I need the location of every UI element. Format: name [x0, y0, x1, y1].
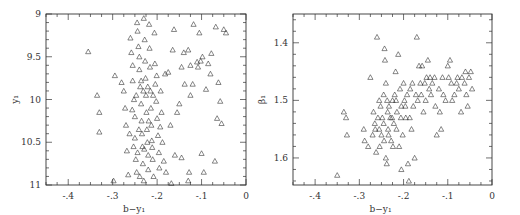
triangle-marker-icon	[218, 99, 223, 104]
x-tick-label: -.4	[62, 191, 74, 201]
triangle-marker-icon	[383, 80, 388, 85]
x-tick-label: -.3	[107, 191, 119, 201]
triangle-marker-icon	[179, 64, 184, 69]
triangle-marker-icon	[146, 152, 151, 157]
triangle-marker-icon	[186, 178, 191, 183]
triangle-marker-icon	[385, 109, 390, 114]
triangle-marker-icon	[112, 73, 117, 78]
triangle-marker-icon	[341, 109, 346, 114]
triangle-marker-icon	[170, 47, 175, 52]
triangle-marker-icon	[377, 144, 382, 149]
triangle-marker-icon	[458, 109, 463, 114]
triangle-marker-icon	[157, 165, 162, 170]
triangle-marker-icon	[138, 84, 143, 89]
triangle-marker-icon	[151, 93, 156, 98]
triangle-marker-icon	[396, 52, 401, 57]
triangle-marker-icon	[136, 127, 141, 132]
triangle-marker-icon	[150, 145, 155, 150]
triangle-marker-icon	[130, 63, 135, 68]
triangle-marker-icon	[179, 155, 184, 160]
triangle-marker-icon	[409, 127, 414, 132]
triangle-marker-icon	[132, 135, 137, 140]
triangle-marker-icon	[437, 109, 442, 114]
triangle-marker-icon	[390, 98, 395, 103]
triangle-marker-icon	[149, 138, 154, 143]
y-tick-label: 10	[30, 95, 42, 105]
data-points	[86, 16, 229, 186]
triangle-marker-icon	[123, 123, 128, 128]
triangle-marker-icon	[379, 132, 384, 137]
triangle-marker-icon	[382, 57, 387, 62]
triangle-marker-icon	[160, 140, 165, 145]
triangle-marker-icon	[147, 22, 152, 27]
triangle-marker-icon	[139, 131, 144, 136]
triangle-marker-icon	[361, 127, 366, 132]
triangle-marker-icon	[154, 99, 159, 104]
x-tick-label: -.3	[354, 191, 366, 201]
triangle-marker-icon	[144, 127, 149, 132]
triangle-marker-icon	[154, 73, 159, 78]
triangle-marker-icon	[456, 86, 461, 91]
triangle-marker-icon	[380, 115, 385, 120]
triangle-marker-icon	[148, 88, 153, 93]
triangle-marker-icon	[148, 105, 153, 110]
triangle-marker-icon	[171, 27, 176, 32]
triangle-marker-icon	[168, 123, 173, 128]
triangle-marker-icon	[197, 30, 202, 35]
triangle-marker-icon	[427, 86, 432, 91]
triangle-marker-icon	[425, 57, 430, 62]
scatter-panel-left: -.4-.3-.2-.1099.51010.511b−y₁y₁	[10, 9, 249, 214]
triangle-marker-icon	[464, 92, 469, 97]
y-tick-label: 10.5	[21, 137, 41, 147]
triangle-marker-icon	[212, 158, 217, 163]
triangle-marker-icon	[411, 104, 416, 109]
triangle-marker-icon	[465, 104, 470, 109]
triangle-marker-icon	[163, 170, 168, 175]
triangle-marker-icon	[206, 61, 211, 66]
x-axis-label: b−y₁	[123, 204, 145, 214]
triangle-marker-icon	[440, 75, 445, 80]
scatter-figure: -.4-.3-.2-.1099.51010.511b−y₁y₁ -.4-.3-.…	[0, 0, 520, 215]
triangle-marker-icon	[368, 75, 373, 80]
triangle-marker-icon	[443, 98, 448, 103]
triangle-marker-icon	[391, 121, 396, 126]
triangle-marker-icon	[430, 80, 435, 85]
triangle-marker-icon	[152, 61, 157, 66]
triangle-marker-icon	[95, 93, 100, 98]
triangle-marker-icon	[145, 84, 150, 89]
triangle-marker-icon	[137, 174, 142, 179]
triangle-marker-icon	[128, 35, 133, 40]
triangle-marker-icon	[153, 82, 158, 87]
triangle-marker-icon	[377, 98, 382, 103]
triangle-marker-icon	[141, 88, 146, 93]
triangle-marker-icon	[399, 167, 404, 172]
triangle-marker-icon	[140, 161, 145, 166]
triangle-marker-icon	[389, 115, 394, 120]
triangle-marker-icon	[408, 86, 413, 91]
triangle-marker-icon	[378, 104, 383, 109]
triangle-marker-icon	[468, 69, 473, 74]
triangle-marker-icon	[445, 63, 450, 68]
x-tick-label: -.2	[151, 191, 163, 201]
triangle-marker-icon	[203, 87, 208, 92]
triangle-marker-icon	[410, 80, 415, 85]
triangle-marker-icon	[398, 115, 403, 120]
triangle-marker-icon	[133, 157, 138, 162]
triangle-marker-icon	[375, 115, 380, 120]
triangle-marker-icon	[187, 170, 192, 175]
y-axis-label: β₁	[257, 95, 267, 104]
y-tick-label: 1.4	[274, 38, 289, 48]
triangle-marker-icon	[130, 78, 135, 83]
triangle-marker-icon	[97, 110, 102, 115]
triangle-marker-icon	[161, 158, 166, 163]
triangle-marker-icon	[143, 58, 148, 63]
triangle-marker-icon	[370, 132, 375, 137]
triangle-marker-icon	[152, 30, 157, 35]
triangle-marker-icon	[209, 51, 214, 56]
triangle-marker-icon	[111, 178, 116, 183]
triangle-marker-icon	[383, 155, 388, 160]
triangle-marker-icon	[423, 98, 428, 103]
triangle-marker-icon	[452, 92, 457, 97]
triangle-marker-icon	[459, 75, 464, 80]
triangle-marker-icon	[374, 150, 379, 155]
